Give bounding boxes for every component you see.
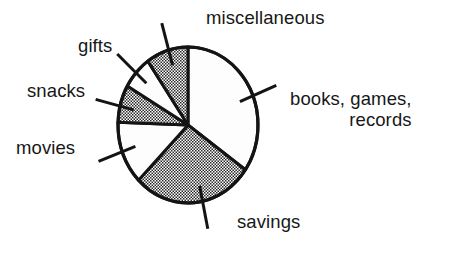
- slice-label-snacks: snacks: [27, 81, 85, 102]
- slice-label-books-line1: books, games,: [290, 88, 412, 109]
- slice-label-movies: movies: [16, 138, 75, 159]
- slice-label-books-games-records: books, games,records: [290, 89, 412, 130]
- pie-chart-figure: miscellaneous gifts snacks movies books,…: [0, 0, 459, 257]
- slice-label-savings: savings: [237, 212, 300, 233]
- slice-label-gifts: gifts: [78, 36, 112, 57]
- slice-label-miscellaneous: miscellaneous: [206, 8, 325, 29]
- slice-label-books-line2: records: [290, 110, 412, 131]
